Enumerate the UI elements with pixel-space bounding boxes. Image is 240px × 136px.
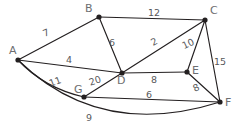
edge-weight-g-f: 6 <box>146 90 152 100</box>
node-label-b: B <box>85 3 93 14</box>
graph-node-c[interactable] <box>202 17 207 22</box>
graph-svg <box>0 0 240 136</box>
node-label-e: E <box>192 65 199 76</box>
graph-edge-d-e <box>122 72 187 73</box>
node-label-a: A <box>9 45 17 56</box>
edge-weight-b-c: 12 <box>148 8 160 18</box>
graph-node-a[interactable] <box>15 57 20 62</box>
edge-weight-d-e: 8 <box>151 75 157 85</box>
edge-weight-a-d: 4 <box>66 55 72 65</box>
graph-diagram-canvas: 712642101588112069ABCDEFG <box>0 0 240 136</box>
edge-weight-b-d: 6 <box>109 38 115 48</box>
node-label-g: G <box>74 84 83 95</box>
graph-edge-a-f <box>18 60 220 114</box>
edge-weight-c-f: 15 <box>214 57 226 67</box>
graph-node-b[interactable] <box>96 14 101 19</box>
graph-edge-a-b <box>18 17 99 60</box>
node-label-c: C <box>210 5 218 16</box>
graph-node-e[interactable] <box>184 69 189 74</box>
edge-weight-a-f: 9 <box>86 113 92 123</box>
node-label-d: D <box>117 75 125 86</box>
node-label-f: F <box>225 97 231 108</box>
graph-node-f[interactable] <box>217 99 222 104</box>
